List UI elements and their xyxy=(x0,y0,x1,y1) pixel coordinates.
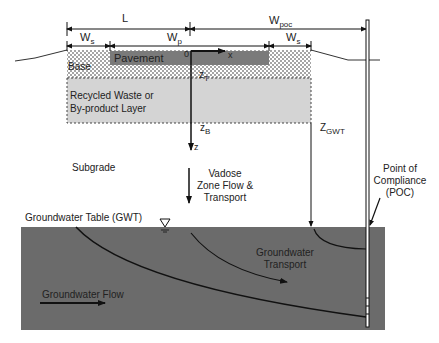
label-L: L xyxy=(122,12,128,24)
label-gw-flow: Groundwater Flow xyxy=(42,289,124,300)
label-vadose-1: Vadose xyxy=(208,168,242,179)
label-gw-transport-2: Transport xyxy=(264,259,307,270)
ground-surface-right xyxy=(311,50,380,60)
label-vadose-2: Zone Flow & xyxy=(197,180,253,191)
label-Wpoc: Wpoc xyxy=(269,14,292,29)
pavement-leaching-diagram: L Ws Wp Wpoc Ws Pavement Base Recycled W… xyxy=(0,0,439,343)
label-gwt: Groundwater Table (GWT) xyxy=(25,212,142,223)
label-origin: 0 xyxy=(184,49,189,59)
label-gw-transport-1: Groundwater xyxy=(256,247,314,258)
label-zB: zB xyxy=(200,122,210,136)
label-Wp: Wp xyxy=(167,31,182,46)
label-recycled-2: By-product Layer xyxy=(70,103,147,114)
label-Ws-right: Ws xyxy=(286,31,300,46)
label-base: Base xyxy=(68,61,91,72)
label-subgrade: Subgrade xyxy=(72,162,116,173)
label-z: z xyxy=(194,142,199,152)
poc-pointer-arrow xyxy=(370,198,380,225)
ground-surface-left xyxy=(15,50,67,61)
label-x: x xyxy=(228,50,233,60)
label-poc-1: Point of xyxy=(383,163,417,174)
label-Ws-left: Ws xyxy=(80,31,94,46)
groundwater-zone xyxy=(21,227,385,330)
label-poc-2: Compliance xyxy=(374,175,427,186)
label-pavement: Pavement xyxy=(114,52,164,64)
label-recycled-1: Recycled Waste or xyxy=(70,90,154,101)
poc-well xyxy=(366,20,369,327)
water-table-icon xyxy=(160,219,170,232)
label-vadose-3: Transport xyxy=(204,192,247,203)
label-poc-3: (POC) xyxy=(386,187,414,198)
label-zGWT: ZGWT xyxy=(320,122,345,136)
